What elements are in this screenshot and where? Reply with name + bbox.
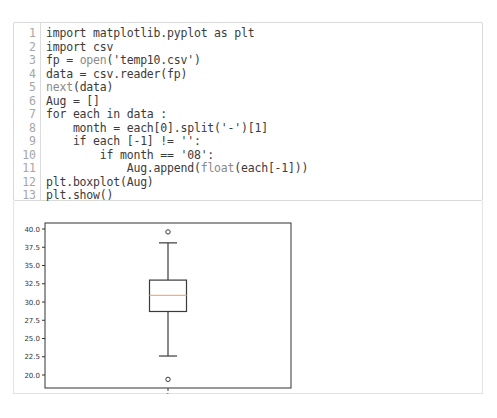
line-number: 10 [22,149,36,163]
line-number: 5 [29,81,36,95]
line-number: 3 [29,54,36,68]
code-line[interactable]: for each in data : [46,108,167,122]
outlier-point [166,230,170,234]
y-tick-label: 20.0 [24,372,40,380]
code-cell[interactable]: 12345678910111213 import matplotlib.pypl… [13,22,483,201]
code-line[interactable]: data = csv.reader(fp) [46,68,187,82]
line-number: 1 [29,27,36,41]
y-tick-label: 30.0 [24,299,40,307]
y-tick-label: 25.0 [24,335,40,343]
line-number: 4 [29,68,36,82]
y-tick-label: 32.5 [24,280,40,288]
line-number: 8 [29,122,36,136]
line-number: 9 [29,135,36,149]
line-number: 2 [29,41,36,55]
code-line[interactable]: next(data) [46,81,113,95]
output-area: 20.022.525.027.530.032.535.037.540.01 [13,201,483,394]
code-line[interactable]: fp = open('temp10.csv') [46,54,201,68]
code-line[interactable]: if each [-1] != '': [46,135,201,149]
builtin-token: open [80,53,107,67]
outlier-point [166,377,170,381]
code-line[interactable]: plt.boxplot(Aug) [46,176,154,190]
code-line[interactable]: month = each[0].split('-')[1] [46,122,268,136]
line-number-gutter: 12345678910111213 [14,23,41,200]
line-number: 11 [22,162,36,176]
x-tick-label: 1 [166,392,171,394]
y-tick-label: 40.0 [24,226,40,234]
y-tick-label: 22.5 [24,353,40,361]
y-tick-label: 37.5 [24,244,40,252]
boxplot-chart: 20.022.525.027.530.032.535.037.540.01 [14,201,484,394]
line-number: 12 [22,176,36,190]
code-line[interactable]: Aug = [] [46,95,100,109]
y-tick-label: 27.5 [24,317,40,325]
code-line[interactable]: import csv [46,41,113,55]
builtin-token: float [201,161,235,175]
line-number: 6 [29,95,36,109]
code-line[interactable]: if month == '08': [46,149,214,163]
builtin-token: next [46,80,73,94]
line-number: 7 [29,108,36,122]
y-tick-label: 35.0 [24,262,40,270]
code-line[interactable]: import matplotlib.pyplot as plt [46,27,254,41]
code-line[interactable]: Aug.append(float(each[-1])) [46,162,308,176]
